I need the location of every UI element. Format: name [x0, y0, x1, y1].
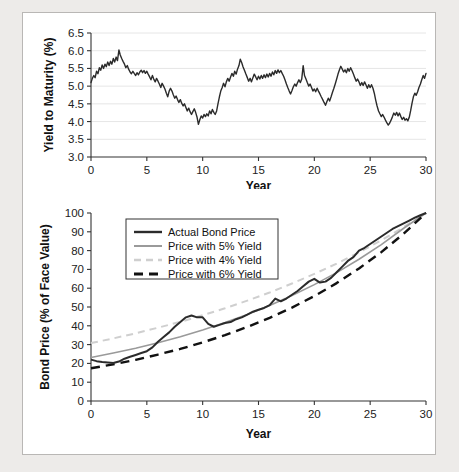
legend-label: Price with 5% Yield [168, 240, 262, 252]
y-tick-label: 30 [71, 339, 84, 351]
y-tick-label: 3.5 [68, 133, 84, 145]
y-tick-label: 60 [71, 282, 84, 294]
x-tick-label: 30 [420, 164, 433, 176]
x-tick-label: 5 [144, 164, 150, 176]
x-tick-label: 10 [196, 164, 209, 176]
x-axis-title: Year [246, 179, 272, 189]
y-tick-label: 5.0 [68, 80, 84, 92]
legend-label: Actual Bond Price [168, 226, 255, 238]
x-tick-label: 15 [252, 408, 265, 420]
x-tick-label: 15 [252, 164, 265, 176]
series-line-yield [91, 50, 426, 125]
legend-label: Price with 6% Yield [168, 268, 262, 280]
y-tick-label: 40 [71, 320, 84, 332]
x-tick-label: 30 [420, 408, 433, 420]
y-tick-label: 0 [78, 395, 84, 407]
y-tick-label: 6.5 [68, 27, 84, 39]
y-tick-label: 4.5 [68, 98, 84, 110]
x-tick-label: 5 [144, 408, 150, 420]
y-tick-label: 3.0 [68, 151, 84, 163]
y-tick-label: 6.0 [68, 45, 84, 57]
y-tick-label: 80 [71, 245, 84, 257]
y-tick-label: 100 [65, 207, 84, 219]
y-tick-label: 4.0 [68, 116, 84, 128]
bond-price-chart-svg: 0102030405060708090100051015202530Actual… [23, 189, 437, 456]
x-tick-label: 20 [308, 408, 321, 420]
y-tick-label: 90 [71, 226, 84, 238]
y-axis-title: Yield to Maturity (%) [42, 38, 56, 153]
y-tick-label: 5.5 [68, 62, 84, 74]
y-tick-label: 10 [71, 376, 84, 388]
x-tick-label: 0 [88, 164, 94, 176]
y-tick-label: 50 [71, 301, 84, 313]
y-tick-label: 70 [71, 263, 84, 275]
x-tick-label: 25 [364, 408, 377, 420]
yield-chart-svg: 3.03.54.04.55.05.56.06.5051015202530Year… [23, 13, 437, 189]
chart-bond-price: 0102030405060708090100051015202530Actual… [23, 189, 435, 456]
chart-yield-to-maturity: 3.03.54.04.55.05.56.06.5051015202530Year… [23, 13, 435, 189]
x-tick-label: 0 [88, 408, 94, 420]
figure-panel: 3.03.54.04.55.05.56.06.5051015202530Year… [22, 12, 436, 455]
x-axis-title: Year [246, 427, 272, 441]
legend-label: Price with 4% Yield [168, 254, 262, 266]
y-axis-title: Bond Price (% of Face Value) [38, 224, 52, 389]
x-tick-label: 20 [308, 164, 321, 176]
x-tick-label: 25 [364, 164, 377, 176]
y-tick-label: 20 [71, 357, 84, 369]
x-tick-label: 10 [196, 408, 209, 420]
